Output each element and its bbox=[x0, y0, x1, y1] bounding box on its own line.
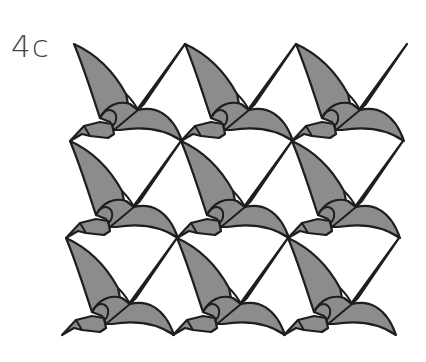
crane-r2-c1 bbox=[66, 141, 181, 238]
crane-r1-c2 bbox=[181, 44, 296, 141]
crane-r3-c3 bbox=[284, 238, 399, 335]
crane-r1-c3 bbox=[292, 44, 407, 141]
crane-r1-c1 bbox=[70, 44, 185, 141]
crane-r2-c2 bbox=[177, 141, 292, 238]
crane-r2-c3 bbox=[288, 141, 403, 238]
crane-r3-c2 bbox=[173, 238, 288, 335]
crane-tessellation bbox=[0, 0, 426, 362]
crane-r3-c1 bbox=[62, 238, 177, 335]
